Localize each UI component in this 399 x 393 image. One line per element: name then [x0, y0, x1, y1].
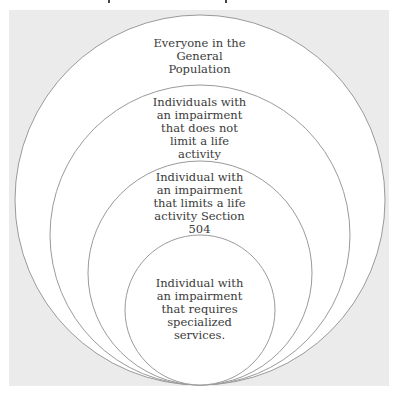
label-specialized-services: Individual with an impairment that requi… — [0, 277, 399, 342]
label-text: Individuals with an impairment that does… — [135, 96, 265, 161]
label-section-504: Individual with an impairment that limit… — [0, 171, 399, 236]
label-general-population: Everyone in the General Population — [0, 37, 399, 76]
label-impairment-not-limiting: Individuals with an impairment that does… — [0, 96, 399, 161]
label-text: Individual with an impairment that requi… — [135, 277, 265, 342]
label-text: Everyone in the General Population — [135, 37, 265, 76]
label-text: Individual with an impairment that limit… — [135, 171, 265, 236]
